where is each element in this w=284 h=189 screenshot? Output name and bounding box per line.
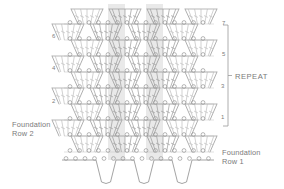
repeat-bracket xyxy=(223,25,232,126)
row-number-left-2: 2 xyxy=(52,98,55,104)
foundation-baseline xyxy=(62,160,214,184)
repeat-label: REPEAT xyxy=(235,72,268,81)
row-number-left-6: 6 xyxy=(52,33,55,39)
row-number-right-7: 7 xyxy=(222,20,225,26)
repeat-shade-band-0 xyxy=(108,4,125,160)
repeat-shade-band-1 xyxy=(146,4,163,160)
chain-stitch-circle xyxy=(140,157,144,161)
row-number-right-3: 3 xyxy=(221,83,224,89)
row-number-right-1: 1 xyxy=(221,114,224,120)
crochet-chart-canvas: Foundation Row 2 Foundation Row 1 REPEAT… xyxy=(0,0,284,189)
chain-stitch-circle xyxy=(102,157,106,161)
row-number-right-5: 5 xyxy=(222,51,225,57)
foundation-row-1-label: Foundation Row 1 xyxy=(222,148,260,166)
chain-stitch-circle xyxy=(188,157,192,161)
foundation-row-2-label: Foundation Row 2 xyxy=(12,120,50,138)
chain-stitch-circle xyxy=(178,157,182,161)
row-number-left-4: 4 xyxy=(52,65,55,71)
stitch-symbols xyxy=(52,9,217,184)
repeat-bracket-path xyxy=(223,25,228,126)
